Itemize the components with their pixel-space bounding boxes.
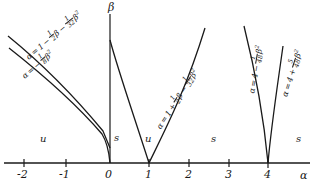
x-tick-label-minus-1: -1	[59, 169, 70, 180]
region-label-stable-mid: s	[211, 134, 216, 144]
x-tick-label-minus-2: -2	[17, 169, 28, 180]
x-tick-label-3: 3	[225, 169, 232, 180]
region-label-stable-right: s	[296, 134, 301, 144]
x-tick-label-4: 4	[264, 169, 271, 180]
curve-alpha-4-plus	[268, 46, 283, 163]
alpha-axis-label: α	[300, 170, 307, 181]
x-tick-label-0: 0	[105, 169, 112, 180]
beta-axis-label: β	[108, 2, 114, 13]
curve-first-tongue-left	[110, 40, 149, 163]
region-label-unstable-mid: u	[145, 134, 151, 144]
region-label-stable-near-zero: s	[114, 133, 119, 143]
stability-diagram: β α -2 -1 0 1 2 3 4 u s u s s α = 1 − 12…	[0, 0, 318, 193]
x-tick-label-1: 1	[145, 169, 152, 180]
x-tick-label-2: 2	[185, 169, 192, 180]
region-label-unstable-left: u	[40, 134, 46, 144]
